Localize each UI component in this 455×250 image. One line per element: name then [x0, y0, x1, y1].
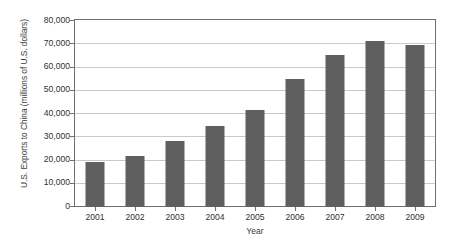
bar-chart-figure: U.S. Exports to China (millions of U.S. …: [0, 0, 455, 250]
y-tick-label: 70,000: [22, 39, 70, 48]
bar[interactable]: [166, 141, 185, 207]
y-tick-label: 0: [22, 202, 70, 211]
y-tick-label: 50,000: [22, 85, 70, 94]
x-tick-mark: [95, 207, 96, 211]
bar-slot: [195, 20, 235, 207]
bar[interactable]: [406, 45, 425, 207]
x-tick-label: 2003: [155, 212, 195, 222]
x-tick-mark: [175, 207, 176, 211]
x-tick-label: 2005: [235, 212, 275, 222]
bar-slot: [315, 20, 355, 207]
bar[interactable]: [206, 126, 225, 207]
x-axis-title: Year: [74, 226, 436, 236]
bar[interactable]: [86, 162, 105, 207]
x-tick-label: 2004: [195, 212, 235, 222]
x-tick-label: 2007: [315, 212, 355, 222]
y-tick-label: 10,000: [22, 178, 70, 187]
x-tick-mark: [135, 207, 136, 211]
x-tick-mark: [295, 207, 296, 211]
x-tick-label: 2001: [75, 212, 115, 222]
y-tick-label: 20,000: [22, 155, 70, 164]
x-tick-mark: [215, 207, 216, 211]
y-tick-label: 30,000: [22, 132, 70, 141]
bar[interactable]: [366, 41, 385, 207]
bar-slot: [235, 20, 275, 207]
bar-slot: [395, 20, 435, 207]
x-tick-mark: [255, 207, 256, 211]
x-tick-mark: [335, 207, 336, 211]
bar-slot: [115, 20, 155, 207]
bar-slot: [275, 20, 315, 207]
bar-slot: [155, 20, 195, 207]
x-tick-label: 2008: [355, 212, 395, 222]
x-tick-label: 2006: [275, 212, 315, 222]
bar[interactable]: [246, 110, 265, 207]
y-tick-label: 40,000: [22, 109, 70, 118]
y-tick-label: 60,000: [22, 62, 70, 71]
bar[interactable]: [286, 79, 305, 207]
bar[interactable]: [326, 55, 345, 207]
bars-layer: [75, 20, 435, 207]
bar-slot: [355, 20, 395, 207]
bar[interactable]: [126, 156, 145, 207]
x-tick-label: 2002: [115, 212, 155, 222]
x-tick-label: 2009: [395, 212, 435, 222]
y-tick-label: 80,000: [22, 16, 70, 25]
x-tick-mark: [415, 207, 416, 211]
x-tick-mark: [375, 207, 376, 211]
bar-slot: [75, 20, 115, 207]
y-axis-title: U.S. Exports to China (millions of U.S. …: [16, 0, 32, 207]
